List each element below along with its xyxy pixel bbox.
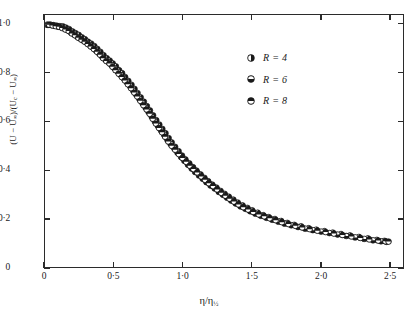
legend-marker-icon [247,54,255,62]
x-axis-tick [320,262,321,268]
y-axis-tick [398,121,404,122]
scatter-series-1 [45,22,387,244]
x-axis-tick-label: 0 [24,271,64,281]
x-axis-tick-label: 2·5 [370,271,410,281]
data-point [331,231,337,237]
figure: 00·20·40·60·81·000·51·01·52·02·5 (U − U∞… [0,0,418,323]
legend-item-label: R = 8 [263,95,287,106]
y-axis-tick [398,72,404,73]
data-point [357,235,363,241]
y-axis-tick [44,267,50,268]
chart-legend: R = 4R = 6R = 8 [247,52,287,106]
data-point [299,225,305,231]
y-axis-tick [44,218,50,219]
data-point [340,232,346,238]
data-point [256,212,262,218]
x-axis-tick [389,262,390,268]
data-point [250,209,256,215]
y-axis-tick [44,121,50,122]
y-axis-tick-label: 0·2 [0,213,10,223]
data-point [273,217,279,223]
x-axis-tick [113,262,114,268]
data-point [366,236,372,242]
legend-item-2: R = 6 [247,74,287,85]
y-axis-tick [44,23,50,24]
y-axis-tick [44,72,50,73]
data-point [261,213,267,219]
legend-item-label: R = 6 [263,74,287,85]
x-axis-tick [251,262,252,268]
x-axis-tick [43,262,44,268]
x-axis-tick [251,14,252,20]
data-point [279,219,285,225]
legend-item-label: R = 4 [263,52,287,63]
data-point [286,221,292,227]
data-point [267,215,273,221]
data-point [348,234,354,240]
legend-item-3: R = 8 [247,95,287,106]
data-point [375,238,381,244]
x-axis-tick [182,262,183,268]
y-axis-tick [398,267,404,268]
x-axis-tick-label: 0·5 [93,271,133,281]
scatter-plot-canvas [45,15,403,267]
scatter-series-2 [45,22,389,245]
y-axis-tick [44,170,50,171]
legend-marker-icon [247,75,255,83]
x-axis-tick [182,14,183,20]
x-axis-title: η/η½ [0,295,418,307]
x-axis-tick [113,14,114,20]
y-axis-tick [398,170,404,171]
data-point [323,229,329,235]
x-axis-tick [320,14,321,20]
y-axis-tick-label: 1·0 [0,18,10,28]
legend-item-1: R = 4 [247,52,287,63]
plot-area [44,14,404,268]
y-axis-tick-label: 0 [0,262,10,272]
data-point [314,228,320,234]
legend-marker-icon [247,97,255,105]
x-axis-tick [43,14,44,20]
scatter-series-3 [46,22,391,245]
x-axis-tick-label: 1·5 [232,271,272,281]
y-axis-tick [398,23,404,24]
data-point [292,223,298,229]
data-point [307,226,313,232]
y-axis-title: (U − U∞)/(Uc − U∞) [8,34,19,184]
x-axis-tick-label: 1·0 [162,271,202,281]
x-axis-tick [389,14,390,20]
data-point [386,239,392,245]
x-axis-tick-label: 2·0 [301,271,341,281]
y-axis-tick [398,218,404,219]
